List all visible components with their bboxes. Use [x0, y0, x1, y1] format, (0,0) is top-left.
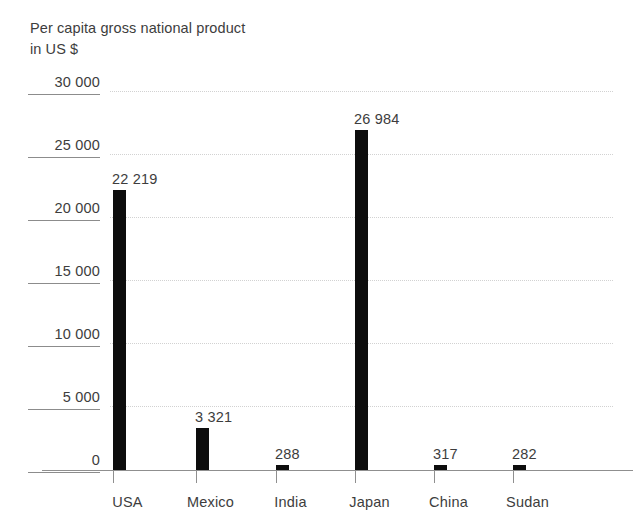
- x-axis-tick-usa: [113, 471, 114, 483]
- bar-value-label-china: 317: [433, 447, 458, 462]
- y-axis-tick-rule: [28, 157, 100, 158]
- chart-container: Per capita gross national product in US …: [0, 0, 642, 528]
- x-axis-tick-india: [276, 471, 277, 483]
- x-axis-tick-japan: [355, 471, 356, 483]
- bar-mexico: [196, 428, 209, 470]
- bar-japan: [355, 130, 368, 470]
- bar-usa: [113, 190, 126, 470]
- bar-value-label-usa: 22 219: [112, 172, 158, 187]
- y-axis-tick: 25 000: [28, 138, 100, 158]
- x-axis-tick-china: [434, 471, 435, 483]
- y-axis-tick-label: 0: [28, 453, 100, 472]
- y-axis-tick-label: 10 000: [28, 327, 100, 346]
- y-axis-tick: 10 000: [28, 327, 100, 347]
- y-axis-tick: 30 000: [28, 75, 100, 95]
- x-axis-label-china: China: [429, 495, 468, 510]
- y-axis-tick-label: 15 000: [28, 264, 100, 283]
- x-axis-label-japan: Japan: [349, 495, 390, 510]
- gridline: [110, 91, 613, 92]
- y-axis-tick-rule: [28, 346, 100, 347]
- plot-area: 30 00025 00020 00015 00010 0005 000022 2…: [0, 0, 642, 528]
- y-axis-tick-label: 25 000: [28, 138, 100, 157]
- x-axis-label-usa: USA: [112, 495, 142, 510]
- bar-value-label-india: 288: [275, 447, 300, 462]
- y-axis-tick: 5 000: [28, 390, 100, 410]
- y-axis-tick-rule: [28, 409, 100, 410]
- bar-value-label-sudan: 282: [512, 447, 537, 462]
- x-axis-label-mexico: Mexico: [187, 495, 234, 510]
- y-axis-tick-label: 20 000: [28, 201, 100, 220]
- x-axis-label-india: India: [274, 495, 306, 510]
- bar-value-label-japan: 26 984: [354, 112, 400, 127]
- y-axis-tick-label: 5 000: [28, 390, 100, 409]
- y-axis-tick-label: 30 000: [28, 75, 100, 94]
- x-axis-tick-sudan: [513, 471, 514, 483]
- y-axis-tick: 20 000: [28, 201, 100, 221]
- y-axis-tick-rule: [28, 472, 100, 473]
- y-axis-tick-rule: [28, 94, 100, 95]
- bar-china: [434, 465, 447, 470]
- x-axis-tick-mexico: [196, 471, 197, 483]
- bar-sudan: [513, 465, 526, 470]
- x-axis-line: [42, 470, 633, 471]
- y-axis-tick-rule: [28, 220, 100, 221]
- y-axis-tick-rule: [28, 283, 100, 284]
- bar-india: [276, 465, 289, 470]
- y-axis-tick: 15 000: [28, 264, 100, 284]
- x-axis-label-sudan: Sudan: [506, 495, 549, 510]
- bar-value-label-mexico: 3 321: [195, 410, 232, 425]
